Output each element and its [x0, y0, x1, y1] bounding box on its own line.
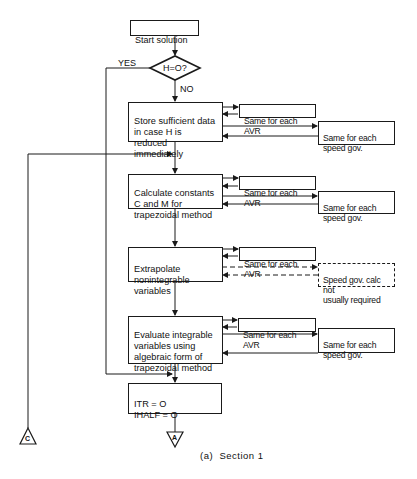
flowchart-section-1: Start solution H=O? YES NO Store suffici…: [0, 0, 417, 479]
connector-a-letter: A: [172, 434, 177, 441]
avr-box-evaluate: Same for each AVR: [238, 318, 316, 332]
speed-gov-box-store: Same for each speed gov.: [318, 121, 395, 145]
figure-caption: (a) Section 1: [200, 450, 264, 461]
start-box: Start solution: [130, 20, 199, 36]
step-evaluate-label: Evaluate integrable variables using alge…: [134, 330, 213, 373]
avr-box-extrapolate: Same for each AVR: [239, 247, 316, 261]
no-label: NO: [180, 84, 194, 94]
step-store-box: Store sufficient data in case H is reduc…: [128, 102, 223, 142]
step-extrapolate-box: Extrapolate nonintegrable variables: [128, 247, 223, 282]
speed-gov-box-evaluate: Same for each speed gov.: [318, 328, 395, 353]
step-calculate-box: Calculate constants C and M for trapezoi…: [128, 174, 223, 209]
decision-label: H=O?: [163, 63, 187, 73]
speed-gov-box-extrapolate-dashed: Speed gov. calc not usually required: [318, 263, 395, 287]
avr-box-calculate: Same for each AVR: [239, 176, 316, 190]
step-evaluate-box: Evaluate integrable variables using alge…: [128, 316, 223, 364]
avr-box-store: Same for each AVR: [239, 104, 316, 118]
speed-gov-box-calculate: Same for each speed gov.: [318, 191, 395, 214]
final-reset-label: ITR = O IHALF = O: [134, 399, 178, 420]
start-label: Start solution: [135, 35, 188, 45]
connector-c-letter: C: [25, 435, 30, 442]
final-reset-box: ITR = O IHALF = O: [128, 383, 222, 414]
step-calculate-label: Calculate constants C and M for trapezoi…: [134, 188, 214, 220]
yes-label: YES: [118, 58, 136, 68]
